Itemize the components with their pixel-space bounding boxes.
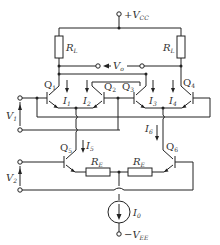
vee-terminal: −VEE: [117, 229, 149, 241]
transistor-q1: Q1: [44, 79, 59, 108]
transistor-q2: Q2: [92, 81, 116, 108]
svg-text:Q3: Q3: [122, 81, 134, 93]
svg-text:RE: RE: [132, 156, 146, 168]
emitter-resistor-left: RE: [75, 156, 119, 176]
svg-text:RE: RE: [90, 156, 104, 168]
svg-text:I5: I5: [85, 140, 94, 152]
gilbert-cell-circuit: +VCC RL RL Vo Q1: [0, 0, 220, 245]
svg-text:I2: I2: [82, 95, 91, 107]
svg-text:Q1: Q1: [44, 79, 56, 91]
svg-text:V2: V2: [6, 172, 17, 184]
input-v1: V1: [6, 96, 210, 132]
svg-text:Q4: Q4: [183, 77, 195, 89]
current-i2: I2: [82, 80, 91, 107]
current-i3: I3: [148, 80, 157, 107]
svg-text:V1: V1: [6, 110, 17, 122]
load-resistor-right: RL: [162, 28, 185, 66]
current-source-i0: I0: [108, 172, 141, 232]
svg-text:+VCC: +VCC: [124, 9, 149, 21]
svg-text:I1: I1: [62, 95, 71, 107]
current-i6: I6: [144, 123, 159, 141]
svg-text:−VEE: −VEE: [124, 229, 149, 241]
svg-text:I4: I4: [168, 95, 177, 107]
svg-text:I0: I0: [132, 207, 141, 219]
vcc-terminal: +VCC: [117, 9, 149, 28]
svg-text:Vo: Vo: [113, 60, 124, 72]
current-i5: I5: [81, 140, 94, 153]
current-i4: I4: [168, 80, 177, 107]
load-resistor-left: RL: [55, 28, 78, 66]
transistor-q5: Q5: [60, 142, 76, 172]
output-vo: Vo: [59, 60, 181, 72]
svg-text:I6: I6: [144, 123, 153, 135]
svg-text:Q6: Q6: [166, 141, 178, 153]
svg-text:I3: I3: [148, 95, 157, 107]
emitter-resistor-right: RE: [119, 156, 164, 176]
svg-text:Q5: Q5: [60, 142, 72, 154]
current-i1: I1: [62, 80, 71, 107]
transistor-q6: Q6: [163, 141, 178, 172]
svg-text:RL: RL: [162, 42, 175, 54]
svg-text:RL: RL: [65, 42, 78, 54]
transistor-q4: Q4: [181, 77, 195, 108]
transistor-q3: Q3: [122, 81, 146, 108]
svg-text:Q2: Q2: [104, 81, 116, 93]
